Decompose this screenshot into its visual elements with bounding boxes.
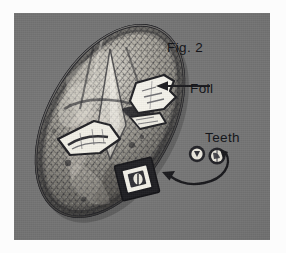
photograph-plate: Fig. 2 Foil Teeth: [14, 13, 270, 240]
callout-layer: [14, 13, 270, 240]
teeth-callout-label: Teeth: [205, 130, 240, 145]
figure-caption: Fig. 2: [167, 40, 203, 55]
tooth-object-1: [189, 146, 205, 162]
figure-page: Fig. 2 Foil Teeth: [0, 0, 286, 253]
foil-callout-label: Foil: [190, 81, 213, 96]
